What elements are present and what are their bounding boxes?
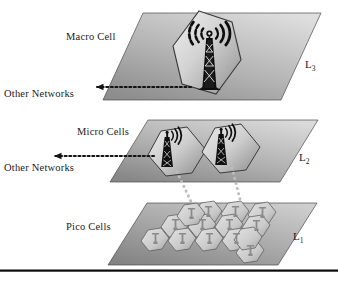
layer-L3-label: L3 <box>305 58 315 73</box>
layer-L2-label: L2 <box>299 151 309 166</box>
bottom-rule <box>0 270 338 272</box>
layer-L3-letter: L <box>305 58 312 70</box>
figure-canvas: Macro Cell Other Networks L3 Micro Cells… <box>0 0 338 283</box>
diagram-svg <box>0 0 338 283</box>
pico-cells-label: Pico Cells <box>66 221 111 232</box>
layer-L1-label: L1 <box>293 230 303 245</box>
layer-L2-letter: L <box>299 151 306 163</box>
layer-L3-group <box>96 11 321 100</box>
layer-L2-subscript: 2 <box>306 157 310 166</box>
micro-cells-label: Micro Cells <box>77 126 129 137</box>
L3-other-networks-label: Other Networks <box>4 88 74 99</box>
layer-L1-group <box>108 201 317 265</box>
L2-other-networks-label: Other Networks <box>4 162 74 173</box>
layer-L1-subscript: 1 <box>300 236 304 245</box>
macro-cell-label: Macro Cell <box>66 31 116 42</box>
layer-L1-letter: L <box>293 230 300 242</box>
layer-L3-subscript: 3 <box>312 64 316 73</box>
